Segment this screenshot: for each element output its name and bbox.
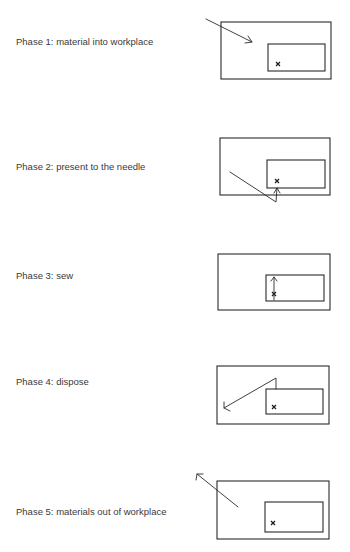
phase-3-diagram <box>218 254 330 310</box>
phase-2-diagram <box>220 138 330 202</box>
phase-4-diagram <box>217 366 329 424</box>
workplace-outline <box>221 22 331 79</box>
workplace-outline <box>220 138 330 195</box>
machine-table-outline <box>268 44 325 71</box>
needle-mark-icon <box>276 62 280 66</box>
workplace-outline <box>217 481 329 539</box>
phase-5-diagram <box>196 474 329 539</box>
machine-table-outline <box>265 502 323 532</box>
workplace-outline <box>217 366 329 424</box>
machine-table-outline <box>266 389 323 414</box>
machine-table-outline <box>266 275 324 301</box>
arrowhead-icon <box>196 474 203 480</box>
needle-mark-icon <box>271 521 275 525</box>
needle-mark-icon <box>275 179 279 183</box>
movement-path <box>230 172 277 202</box>
movement-path <box>224 378 276 408</box>
phase-1-diagram <box>206 19 331 79</box>
phase-diagrams <box>0 0 350 552</box>
machine-table-outline <box>267 160 325 188</box>
needle-mark-icon <box>272 405 276 409</box>
